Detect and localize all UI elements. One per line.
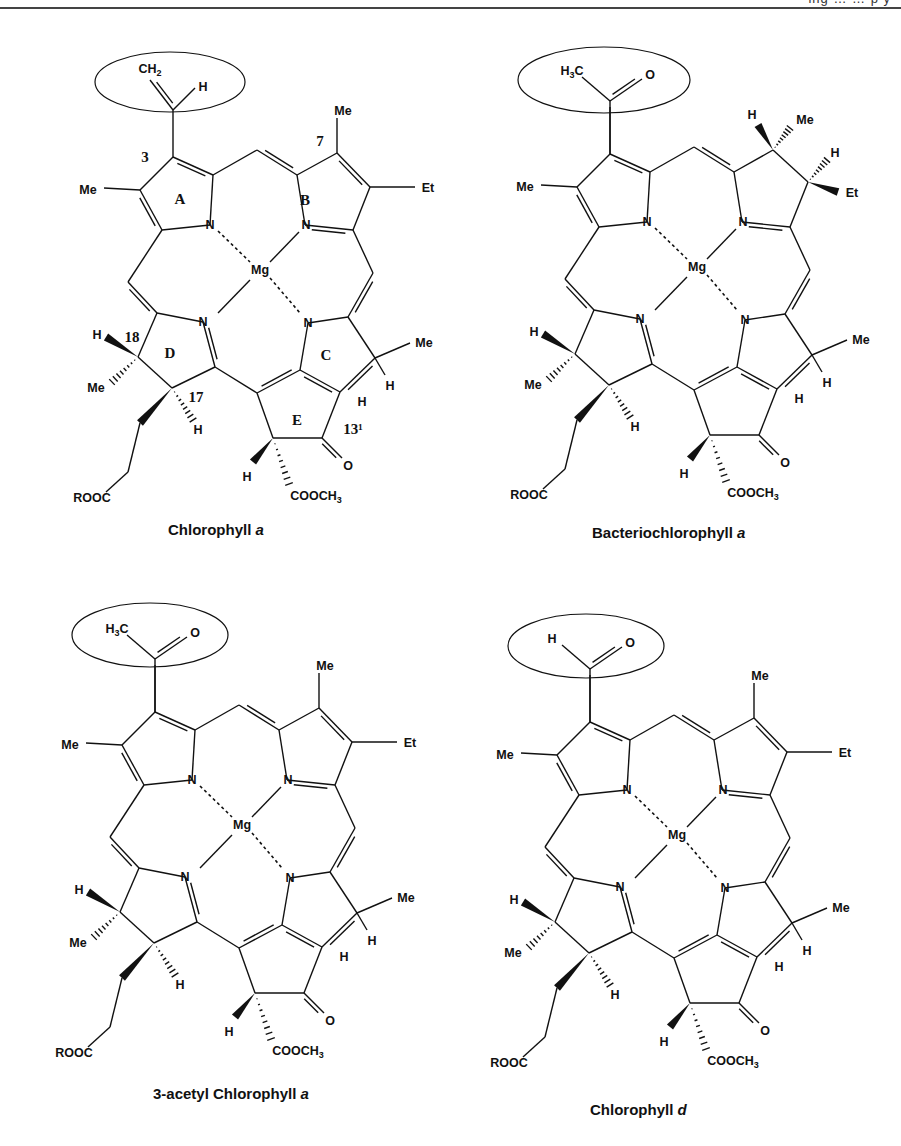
bond <box>812 355 822 372</box>
bond <box>161 954 164 956</box>
bond <box>626 893 634 925</box>
coordination-bond <box>200 786 232 817</box>
bond <box>120 912 154 943</box>
bond <box>91 934 97 940</box>
bond <box>104 188 140 190</box>
acetyl-ch3-label: H3C <box>560 64 583 80</box>
bond <box>754 718 787 752</box>
bond <box>737 320 745 367</box>
nitrogen-label: N <box>740 313 749 327</box>
ring-label-a: A <box>175 191 186 207</box>
acetyl-ch3-label: H3C <box>105 622 128 638</box>
bond <box>322 913 357 947</box>
bond <box>355 282 373 313</box>
bond <box>551 925 552 926</box>
bond <box>737 367 777 389</box>
nitrogen-label: N <box>187 773 196 787</box>
h-label: H <box>357 395 366 409</box>
bond <box>702 1048 710 1051</box>
wedge-bond <box>667 1003 690 1030</box>
bond <box>263 1021 268 1023</box>
bond <box>357 913 367 930</box>
ketone-o-label: O <box>343 459 353 473</box>
bond <box>816 170 819 173</box>
bond <box>717 935 757 957</box>
bond <box>787 126 793 131</box>
bond <box>127 635 155 659</box>
bond <box>610 79 642 101</box>
methyl-label: Me <box>316 659 333 673</box>
bond <box>555 922 589 953</box>
h-label: H <box>339 950 348 964</box>
coordination-bond <box>635 796 667 827</box>
ester-label: ROOC <box>73 491 111 505</box>
bond <box>252 787 281 817</box>
bond <box>120 868 139 912</box>
nitrogen-label: N <box>615 880 624 894</box>
bond <box>734 150 773 172</box>
bond <box>526 944 532 950</box>
bond <box>239 925 282 948</box>
bond <box>297 153 337 175</box>
bond <box>173 88 195 110</box>
highlight-ellipse <box>72 603 228 667</box>
coordination-bond <box>270 278 300 313</box>
ester-label: COOCH3 <box>290 489 342 505</box>
bond <box>562 645 590 669</box>
bond <box>579 790 627 795</box>
bond <box>106 923 109 926</box>
bond <box>790 227 810 270</box>
ketone-o-label: O <box>780 456 790 470</box>
nitrogen-label: N <box>622 783 631 797</box>
vinyl-h-label: H <box>198 80 207 94</box>
bond <box>109 379 115 385</box>
bond <box>550 373 555 378</box>
compound-title: Chlorophyll a <box>168 521 264 538</box>
bond <box>650 147 694 172</box>
bond <box>106 472 128 492</box>
bond <box>695 1020 698 1021</box>
nitrogen-label: N <box>738 215 747 229</box>
bond <box>718 463 723 465</box>
bond <box>312 230 346 234</box>
bond <box>594 310 640 319</box>
bond <box>276 449 278 450</box>
ester-label: COOCH3 <box>727 486 779 502</box>
bond <box>294 785 328 789</box>
bond <box>357 898 392 913</box>
bond <box>131 363 132 364</box>
coordination-bond <box>655 228 687 259</box>
bond <box>707 229 736 259</box>
magnesium-label: Mg <box>668 828 686 842</box>
bond <box>679 935 709 951</box>
bond <box>814 173 816 175</box>
h-label: H <box>630 420 639 434</box>
bond <box>257 150 297 175</box>
bond <box>173 157 213 175</box>
ethyl-label: Et <box>839 746 852 760</box>
nitrogen-label: N <box>720 881 729 895</box>
bond <box>604 979 610 983</box>
h-label: H <box>175 978 184 992</box>
bond <box>719 469 725 471</box>
bond <box>574 878 620 887</box>
bond <box>156 947 157 948</box>
bond <box>88 1027 110 1047</box>
bond <box>169 969 175 973</box>
bond <box>646 325 654 357</box>
position-label: 3 <box>141 149 149 165</box>
bond <box>262 370 292 386</box>
position-label: 18 <box>125 329 140 345</box>
bond <box>785 270 810 314</box>
bond <box>721 942 749 957</box>
bond <box>820 164 825 168</box>
ester-label: ROOC <box>55 1046 93 1060</box>
bond <box>139 868 185 877</box>
methyl-label: Me <box>61 738 78 752</box>
bond <box>725 882 765 888</box>
ethyl-label: Et <box>422 181 435 195</box>
bond <box>98 929 102 933</box>
methyl-label: Me <box>69 936 86 950</box>
bond <box>745 314 785 320</box>
bond <box>715 452 718 453</box>
